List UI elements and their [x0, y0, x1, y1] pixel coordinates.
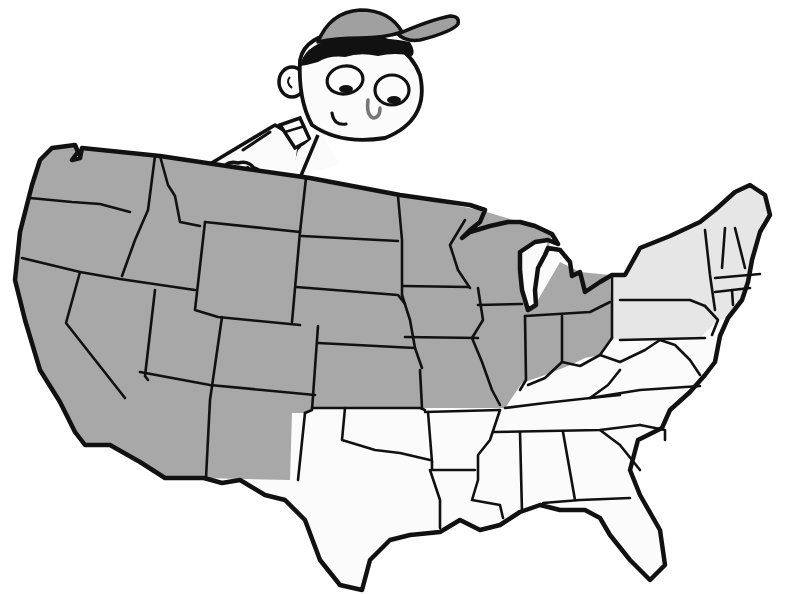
illustration	[0, 0, 796, 594]
cap	[318, 10, 402, 42]
united-states-map	[15, 145, 770, 590]
boy-character	[200, 10, 458, 188]
boy-head	[279, 10, 458, 140]
cap-brim	[398, 16, 458, 40]
